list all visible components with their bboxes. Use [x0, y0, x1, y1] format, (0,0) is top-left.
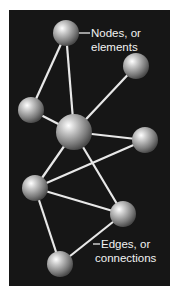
edges-label-line2: connections: [95, 252, 157, 264]
node: [47, 251, 73, 277]
edges-label-line1: Edges, or: [101, 238, 150, 250]
nodes-label-line2: elements: [91, 41, 138, 53]
nodes-label-line1: Nodes, or: [91, 27, 141, 39]
node: [56, 114, 92, 150]
node: [110, 201, 136, 227]
node: [22, 175, 48, 201]
node: [53, 20, 79, 46]
node: [18, 97, 44, 123]
node: [123, 53, 149, 79]
node: [132, 127, 158, 153]
network-diagram: Nodes, or elements Edges, or connections: [0, 0, 177, 299]
